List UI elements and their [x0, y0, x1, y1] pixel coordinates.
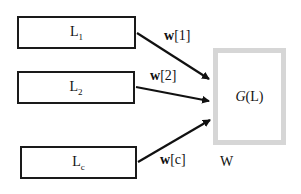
input-box-l1: L1 — [17, 16, 136, 49]
weight-label-c: w[c] — [160, 152, 186, 168]
output-function: G(L) — [235, 89, 263, 105]
input-label: Lc — [72, 154, 85, 172]
input-box-l2: L2 — [17, 71, 135, 104]
weight-label-1: w[1] — [164, 28, 190, 44]
arrow-w2 — [136, 87, 209, 101]
input-label: L1 — [70, 24, 83, 42]
input-label: L2 — [69, 79, 82, 97]
output-box: G(L) — [213, 48, 286, 145]
input-box-lc: Lc — [20, 146, 137, 179]
weight-label-2: w[2] — [150, 68, 176, 84]
output-caption: W — [220, 154, 233, 170]
